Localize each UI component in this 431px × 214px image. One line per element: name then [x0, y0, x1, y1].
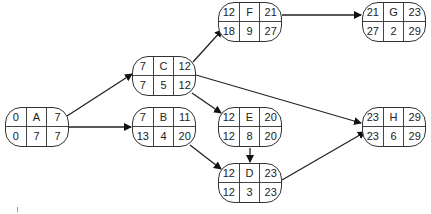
- earliest-finish: 23: [404, 3, 425, 22]
- stray-tick-mark: [17, 207, 18, 212]
- node-f: 12 F 21 18 9 27: [218, 2, 282, 42]
- latest-finish: 12: [174, 76, 195, 95]
- activity-label: H: [384, 108, 405, 127]
- node-d: 12 D 23 12 3 23: [218, 163, 282, 203]
- activity-label: D: [240, 164, 261, 183]
- latest-start: 18: [219, 22, 240, 41]
- duration: 8: [240, 127, 261, 146]
- duration: 3: [240, 183, 261, 202]
- edge-c-e: [192, 93, 221, 113]
- earliest-start: 7: [133, 108, 154, 127]
- latest-finish: 27: [260, 22, 281, 41]
- activity-label: C: [154, 57, 175, 76]
- activity-label: E: [240, 108, 261, 127]
- duration: 4: [154, 127, 175, 146]
- latest-start: 0: [6, 127, 27, 146]
- latest-finish: 29: [404, 22, 425, 41]
- node-e: 12 E 20 12 8 20: [218, 107, 282, 147]
- earliest-start: 12: [219, 3, 240, 22]
- duration: 9: [240, 22, 261, 41]
- duration: 2: [384, 22, 405, 41]
- earliest-finish: 7: [47, 108, 68, 127]
- activity-label: A: [27, 108, 48, 127]
- latest-finish: 20: [260, 127, 281, 146]
- earliest-finish: 12: [174, 57, 195, 76]
- earliest-start: 12: [219, 108, 240, 127]
- earliest-finish: 21: [260, 3, 281, 22]
- earliest-finish: 23: [260, 164, 281, 183]
- latest-finish: 7: [47, 127, 68, 146]
- node-h: 23 H 29 23 6 29: [362, 107, 426, 147]
- edge-d-h: [282, 132, 365, 180]
- latest-finish: 29: [404, 127, 425, 146]
- latest-start: 13: [133, 127, 154, 146]
- node-b: 7 B 11 13 4 20: [132, 107, 196, 147]
- edge-a-c: [67, 74, 132, 116]
- edge-c-f: [193, 30, 222, 62]
- node-c: 7 C 12 7 5 12: [132, 56, 196, 96]
- latest-start: 12: [219, 183, 240, 202]
- latest-start: 27: [363, 22, 384, 41]
- activity-label: B: [154, 108, 175, 127]
- earliest-finish: 20: [260, 108, 281, 127]
- latest-finish: 23: [260, 183, 281, 202]
- node-g: 21 G 23 27 2 29: [362, 2, 426, 42]
- earliest-start: 7: [133, 57, 154, 76]
- latest-start: 7: [133, 76, 154, 95]
- earliest-finish: 11: [174, 108, 195, 127]
- latest-finish: 20: [174, 127, 195, 146]
- earliest-start: 21: [363, 3, 384, 22]
- edge-b-d: [190, 145, 221, 169]
- latest-start: 23: [363, 127, 384, 146]
- duration: 5: [154, 76, 175, 95]
- activity-label: G: [384, 3, 405, 22]
- node-a: 0 A 7 0 7 7: [5, 107, 69, 147]
- duration: 7: [27, 127, 48, 146]
- earliest-start: 12: [219, 164, 240, 183]
- duration: 6: [384, 127, 405, 146]
- earliest-finish: 29: [404, 108, 425, 127]
- earliest-start: 0: [6, 108, 27, 127]
- earliest-start: 23: [363, 108, 384, 127]
- activity-label: F: [240, 3, 261, 22]
- latest-start: 12: [219, 127, 240, 146]
